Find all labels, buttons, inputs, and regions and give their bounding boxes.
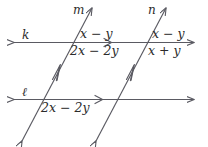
angle-label-k-n-below: x + y <box>148 45 181 58</box>
angle-label-k-m-below: 2x − 2y <box>70 45 118 58</box>
label-line-l: ℓ <box>22 86 27 98</box>
label-transversal-m: m <box>73 4 84 16</box>
label-line-k: k <box>22 29 29 41</box>
angle-label-k-n-above: x − y <box>152 28 185 41</box>
geometry-figure: k ℓ m n x − y 2x − 2y x − y x + y 2x − 2… <box>0 0 208 147</box>
diagram-canvas <box>0 0 208 147</box>
angle-label-l-m-below: 2x − 2y <box>41 102 89 115</box>
angle-label-k-m-above: x − y <box>80 28 113 41</box>
label-transversal-n: n <box>148 4 156 16</box>
